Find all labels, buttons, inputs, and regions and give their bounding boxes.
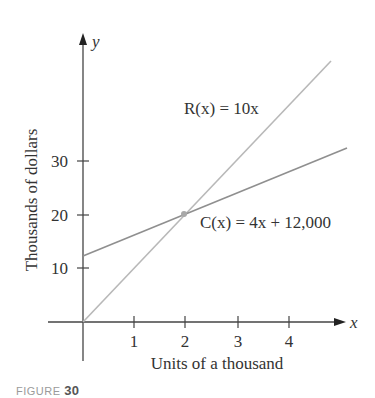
xtick-label-1: 1 <box>130 332 139 351</box>
x-axis-title: Units of a thousand <box>151 354 284 373</box>
cost-label: C(x) = 4x + 12,000 <box>200 213 331 232</box>
y-axis-symbol: y <box>90 32 100 51</box>
ytick-label-30: 30 <box>51 152 68 171</box>
cost-line <box>83 148 347 256</box>
xtick-label-2: 2 <box>181 332 190 351</box>
y-axis-arrow-icon <box>79 33 87 45</box>
x-axis-arrow-icon <box>334 318 346 326</box>
ytick-label-20: 20 <box>51 206 68 225</box>
x-axis-symbol: x <box>349 313 358 332</box>
caption-number: 30 <box>64 383 79 398</box>
break-even-point <box>181 211 187 217</box>
xtick-label-4: 4 <box>285 332 294 351</box>
ytick-label-10: 10 <box>51 259 68 278</box>
figure-caption: FIGURE 30 <box>16 383 80 398</box>
caption-prefix: FIGURE <box>16 385 61 397</box>
y-axis-title: Thousands of dollars <box>22 129 41 272</box>
xtick-label-3: 3 <box>234 332 243 351</box>
revenue-label: R(x) = 10x <box>184 99 259 118</box>
